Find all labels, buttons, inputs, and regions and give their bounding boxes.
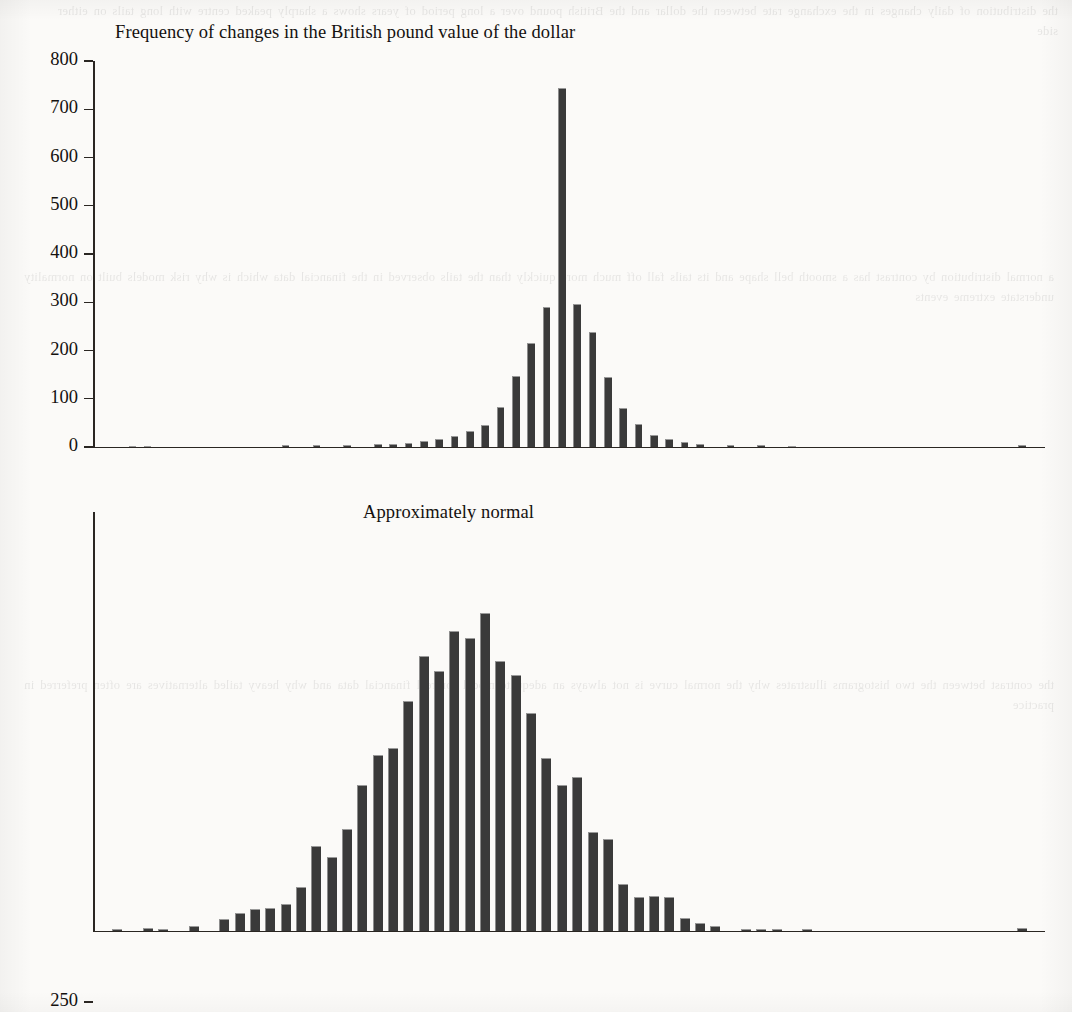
y-tick-label-500: 500 (8, 194, 78, 215)
bar (480, 613, 490, 931)
y-tick-0 (84, 446, 93, 447)
bar (434, 671, 444, 931)
bar (756, 929, 766, 931)
bar (573, 304, 581, 447)
y-tick-label-600: 600 (8, 146, 78, 167)
y-tick-label-0: 0 (8, 435, 78, 456)
bar (680, 918, 690, 931)
bar (527, 343, 535, 447)
y-tick-label-800: 800 (8, 49, 78, 70)
bar (144, 446, 152, 447)
plot-area-top (94, 61, 1045, 447)
bar (327, 857, 337, 931)
y-tick-label-200: 200 (8, 339, 78, 360)
y-tick-200 (84, 350, 93, 351)
chart-title-top: Frequency of changes in the British poun… (115, 22, 575, 43)
bar (403, 701, 413, 931)
bar (589, 332, 597, 447)
bar (265, 908, 275, 931)
y-tick-label-700: 700 (8, 97, 78, 118)
y-tick-500 (84, 205, 93, 206)
chart-pound-dollar-changes: Frequency of changes in the British poun… (0, 0, 1072, 470)
bar (772, 929, 782, 931)
bar (435, 439, 443, 447)
bar (357, 785, 367, 931)
bar (343, 445, 351, 447)
y-tick-100 (84, 398, 93, 399)
bar (235, 913, 245, 931)
bar (588, 832, 598, 931)
bar (512, 376, 520, 447)
bar (451, 436, 459, 447)
bar (143, 928, 153, 931)
chart-approximately-normal: Approximately normal 050100150200250 (0, 490, 1072, 960)
bar (619, 408, 627, 447)
y-tick-label-300: 300 (8, 290, 78, 311)
bar (541, 758, 551, 931)
bar (511, 675, 521, 931)
bar (649, 896, 659, 931)
bar (420, 441, 428, 447)
bar (419, 656, 429, 931)
bar (650, 435, 658, 447)
bar (449, 631, 459, 931)
bar (313, 445, 321, 447)
bar (250, 909, 260, 931)
bar (635, 424, 643, 447)
bar (557, 785, 567, 931)
bar (405, 443, 413, 447)
bar (219, 919, 229, 931)
y-tick-250 (84, 1001, 93, 1002)
bar (282, 445, 290, 447)
bar (389, 444, 397, 447)
bar (543, 307, 551, 447)
bar (727, 445, 735, 447)
bar (281, 904, 291, 931)
bar (129, 446, 137, 447)
bar (189, 926, 199, 931)
y-tick-label-400: 400 (8, 242, 78, 263)
bar (497, 407, 505, 447)
bar (1017, 928, 1027, 931)
bar (465, 638, 475, 931)
bar (802, 929, 812, 931)
bar (466, 431, 474, 447)
bar (757, 445, 765, 447)
bar (603, 839, 613, 931)
bar (158, 929, 168, 931)
bar (664, 897, 674, 931)
bar (481, 425, 489, 447)
bar (342, 829, 352, 931)
bar (311, 846, 321, 931)
bar (695, 923, 705, 931)
y-tick-800 (84, 60, 93, 61)
bar (495, 661, 505, 931)
y-tick-700 (84, 109, 93, 110)
y-tick-400 (84, 253, 93, 254)
bar (741, 929, 751, 931)
bar (681, 442, 689, 447)
plot-area-bottom (94, 512, 1045, 931)
bar (634, 897, 644, 931)
y-tick-600 (84, 157, 93, 158)
y-tick-label-100: 100 (8, 387, 78, 408)
bar (788, 446, 796, 447)
bar (374, 444, 382, 447)
bar (526, 713, 536, 931)
bar (665, 439, 673, 447)
bar (696, 444, 704, 447)
bar (710, 926, 720, 931)
bar (296, 887, 306, 931)
bar (618, 884, 628, 931)
bar (373, 755, 383, 931)
bar (558, 88, 566, 447)
bar (572, 777, 582, 931)
bar (388, 748, 398, 931)
y-tick-label-250: 250 (8, 990, 78, 1011)
bar (112, 929, 122, 931)
bar (1018, 445, 1026, 447)
y-tick-300 (84, 302, 93, 303)
bar (604, 377, 612, 447)
